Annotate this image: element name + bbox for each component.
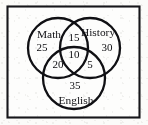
- set-label-english: English: [59, 94, 94, 106]
- region-value-math-history: 15: [69, 31, 81, 43]
- venn-diagram-figure: Math History English 25 30 35 15 20 5 10: [0, 0, 148, 125]
- set-label-math: Math: [37, 28, 61, 40]
- region-value-math-only: 25: [37, 41, 49, 53]
- region-value-history-only: 30: [102, 41, 114, 53]
- region-value-english-only: 35: [70, 79, 82, 91]
- region-value-math-english: 20: [53, 58, 65, 70]
- region-value-history-english: 5: [87, 58, 93, 70]
- set-label-history: History: [81, 26, 115, 38]
- venn-diagram-canvas: Math History English 25 30 35 15 20 5 10: [0, 0, 148, 125]
- region-value-all-three: 10: [69, 48, 81, 60]
